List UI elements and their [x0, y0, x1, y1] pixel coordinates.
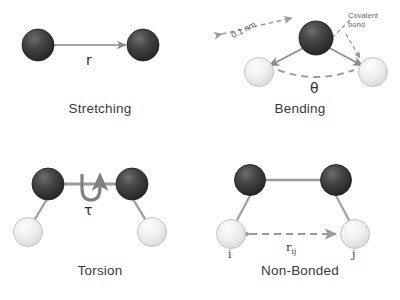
panel-nonbonded: i j rij Non-Bonded: [200, 150, 400, 300]
panel-stretching: r Stretching: [0, 0, 200, 150]
atom-dark-right: [321, 165, 352, 196]
panel-torsion: τ Torsion: [0, 150, 200, 300]
atom-dark-right: [116, 168, 148, 200]
panel-bending: 0.1 nm Covalent bond θ Bending: [200, 0, 400, 150]
covalent-bond-label-line1: Covalent: [348, 11, 378, 20]
nonbonded-distance-symbol: rij: [286, 240, 296, 256]
bond-right-light: [334, 192, 350, 222]
bending-diagram: [200, 0, 400, 150]
caption-nonbonded: Non-Bonded: [200, 263, 400, 278]
atom-light-right: [138, 218, 167, 247]
caption-bending: Bending: [200, 101, 400, 116]
covalent-bond-label-line2: bond: [348, 20, 365, 29]
atom-light-right: [341, 220, 370, 249]
nonbonded-distance-subscript: ij: [292, 247, 297, 256]
covalent-bond-pointer-lower: [346, 34, 360, 58]
atom-dark-left: [32, 168, 64, 200]
torsion-arrow: [82, 174, 100, 200]
atom-index-i: i: [228, 248, 232, 261]
atom-light-right: [359, 58, 388, 87]
atom-index-j: j: [352, 248, 355, 261]
caption-stretching: Stretching: [0, 101, 200, 116]
bond-left-light: [236, 192, 252, 222]
atom-dark-right: [127, 29, 159, 61]
stretching-diagram: [0, 0, 200, 150]
atom-light-left: [217, 220, 246, 249]
angle-arc: [278, 70, 354, 77]
figure-canvas: r Stretching 0.1 nm Covalent bond θ Bend…: [0, 0, 400, 300]
torsion-angle-symbol: τ: [84, 202, 92, 218]
atom-light-left: [14, 218, 43, 247]
atom-dark-left: [235, 165, 266, 196]
caption-torsion: Torsion: [0, 263, 200, 278]
atom-dark-left: [22, 29, 54, 61]
stretching-distance-symbol: r: [86, 52, 92, 68]
bending-angle-symbol: θ: [310, 80, 319, 96]
atom-light-left: [245, 58, 274, 87]
atom-dark-center: [299, 21, 333, 55]
